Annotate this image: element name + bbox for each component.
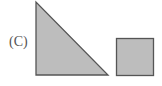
figure-canvas (0, 0, 162, 86)
right-triangle-shape (36, 2, 108, 75)
square-shape (117, 39, 154, 76)
